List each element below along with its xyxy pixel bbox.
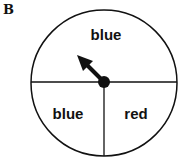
- sector-label-bottom-left: blue: [53, 105, 84, 122]
- sector-label-bottom-right: red: [124, 105, 147, 122]
- sector-label-top: blue: [91, 26, 122, 43]
- spinner-diagram: blue blue red: [0, 0, 180, 162]
- spinner-hub: [98, 76, 110, 88]
